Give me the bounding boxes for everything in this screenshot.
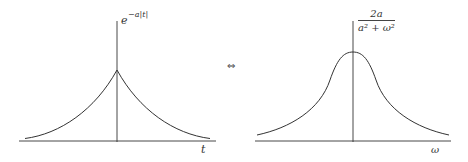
right-x-axis-label: ω bbox=[431, 144, 439, 155]
left-x-axis-label: t bbox=[201, 143, 205, 156]
fourier-pair-diagram bbox=[0, 0, 468, 162]
fraction-numerator: 2a bbox=[358, 8, 395, 21]
left-function-base: e bbox=[121, 14, 128, 27]
left-function-exponent: −a|t| bbox=[128, 10, 148, 19]
left-exponential-curve bbox=[25, 70, 210, 139]
equivalence-symbol: ⇔ bbox=[227, 60, 235, 71]
fraction-denominator: a² + ω² bbox=[358, 21, 395, 33]
right-function-fraction: 2a a² + ω² bbox=[358, 8, 395, 33]
